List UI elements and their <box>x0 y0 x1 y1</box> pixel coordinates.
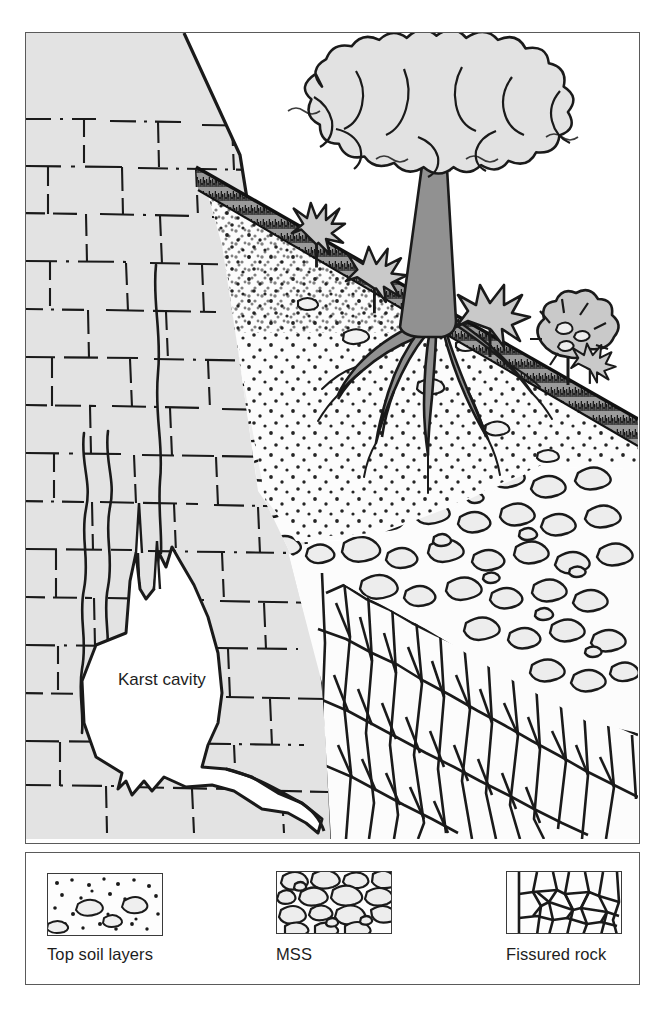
main-diagram-frame: Karst cavity <box>25 32 640 844</box>
legend-swatch-mss <box>276 871 392 934</box>
legend-label-mss: MSS <box>276 945 312 964</box>
cross-section-svg: Karst cavity <box>26 33 638 842</box>
karst-cavity-label: Karst cavity <box>118 670 206 689</box>
legend-label-top-soil-layers: Top soil layers <box>47 945 153 964</box>
figure-root: Karst cavity <box>0 0 668 1017</box>
legend-frame: Top soil layers <box>25 852 640 985</box>
legend-label-fissured-rock: Fissured rock <box>506 945 606 964</box>
legend-swatch-fissured-rock <box>506 871 622 934</box>
legend-swatch-top-soil-layers <box>47 873 163 936</box>
